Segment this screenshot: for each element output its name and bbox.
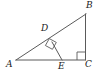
geometry-figure: A B C D E	[0, 0, 102, 78]
vertex-label-c: C	[85, 60, 92, 69]
vertex-label-b: B	[86, 1, 93, 10]
segment-ab	[16, 14, 86, 60]
right-angle-mark-c	[77, 52, 85, 60]
vertex-label-d: D	[41, 24, 48, 33]
vertex-label-e: E	[58, 62, 65, 71]
vertex-label-a: A	[6, 60, 13, 69]
segment-de	[52, 42, 62, 60]
